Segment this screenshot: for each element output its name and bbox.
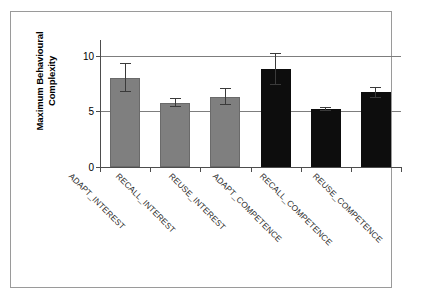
y-tick-mark-10	[96, 56, 101, 57]
error-bar-cap-top	[120, 63, 131, 64]
bar-recall-competence	[311, 109, 341, 167]
figure-frame: Maximum Behavioural Complexity 0510 ADAP…	[10, 11, 392, 288]
error-bar-cap-top	[370, 87, 381, 88]
figure: Maximum Behavioural Complexity 0510 ADAP…	[0, 0, 421, 302]
y-axis-line	[100, 40, 101, 168]
error-bar-cap-bottom	[320, 110, 331, 111]
error-bar-stem	[225, 88, 226, 105]
bar-reuse-interest	[210, 97, 240, 167]
error-bar-stem	[125, 63, 126, 92]
y-axis-title-line-2: Complexity	[46, 56, 58, 106]
error-bar-cap-bottom	[270, 84, 281, 85]
error-bar-cap-bottom	[170, 106, 181, 107]
y-axis-title: Maximum Behavioural Complexity	[29, 16, 63, 146]
y-axis-title-line-1: Maximum Behavioural	[34, 32, 46, 131]
x-tick-mark-6	[401, 167, 402, 172]
error-bar-cap-top	[170, 98, 181, 99]
error-bar-cap-bottom	[220, 104, 231, 105]
x-axis-labels: ADAPT_INTERESTRECALL_INTERESTREUSE_INTER…	[100, 169, 401, 294]
error-bar-cap-top	[320, 107, 331, 108]
error-bar-adapt-competence	[270, 53, 282, 84]
error-bar-recall-interest	[169, 98, 181, 107]
error-bar-reuse-interest	[219, 88, 231, 105]
bar-reuse-competence	[361, 92, 391, 167]
error-bar-adapt-interest	[119, 63, 131, 92]
error-bar-reuse-competence	[370, 87, 382, 98]
plot-area: 0510	[100, 40, 401, 167]
y-tick-mark-5	[96, 111, 101, 112]
gridline-5	[100, 111, 401, 112]
error-bar-cap-top	[220, 88, 231, 89]
y-tick-label-5: 5	[88, 106, 94, 117]
gridline-10	[100, 56, 401, 57]
error-bar-cap-bottom	[370, 97, 381, 98]
error-bar-stem	[275, 53, 276, 84]
bar-recall-interest	[160, 103, 190, 167]
y-tick-label-0: 0	[88, 162, 94, 173]
error-bar-cap-bottom	[120, 91, 131, 92]
error-bar-cap-top	[270, 53, 281, 54]
y-tick-label-10: 10	[83, 50, 94, 61]
error-bar-recall-competence	[320, 107, 332, 111]
